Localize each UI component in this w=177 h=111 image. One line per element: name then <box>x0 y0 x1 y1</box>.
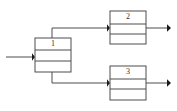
connector-input-to-block-1 <box>6 53 35 61</box>
block-2-label: 2 <box>126 12 130 21</box>
connector-block-1-to-block-3 <box>52 72 110 87</box>
connector-block-3-output <box>146 79 171 87</box>
block-1-label: 1 <box>51 39 55 48</box>
block-2[interactable]: 2 <box>110 11 146 44</box>
block-3-label: 3 <box>126 67 130 76</box>
block-3[interactable]: 3 <box>110 66 146 100</box>
diagram-canvas: 1 2 3 <box>0 0 177 111</box>
connector-block-1-to-block-2 <box>52 24 110 38</box>
connector-block-2-output <box>146 24 171 32</box>
block-1[interactable]: 1 <box>35 38 71 72</box>
diagram-svg: 1 2 3 <box>0 0 177 111</box>
